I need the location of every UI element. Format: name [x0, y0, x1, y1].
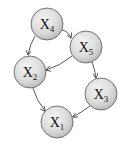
- node-x4: X4: [31, 8, 63, 40]
- edge-x5-x2: [46, 56, 72, 70]
- edge-x5-x3: [92, 62, 96, 78]
- nodes-layer: X4 X5 X2 X3 X1: [14, 8, 117, 138]
- edge-x2-x1: [33, 88, 45, 111]
- causal-graph-diagram: X4 X5 X2 X3 X1: [0, 0, 125, 150]
- edge-x4-x2: [28, 36, 35, 55]
- edge-x3-x1: [73, 106, 90, 117]
- edge-x4-x5: [62, 30, 71, 38]
- node-x5: X5: [70, 31, 102, 63]
- node-x2: X2: [14, 56, 46, 88]
- node-x1: X1: [41, 106, 73, 138]
- node-x3: X3: [85, 78, 117, 110]
